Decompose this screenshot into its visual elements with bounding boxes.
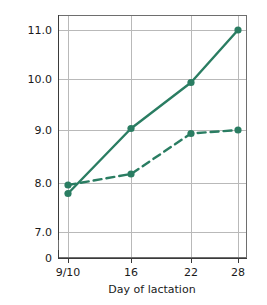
dashed-point-28 xyxy=(234,126,241,133)
line-chart-figure: 11.0 10.0 9.0 8.0 7.0 0 9/10 16 22 28 Da… xyxy=(0,0,267,305)
xtick-label-16: 16 xyxy=(124,266,138,279)
xtick-label-9-10: 9/10 xyxy=(56,266,81,279)
dashed-point-22 xyxy=(187,130,194,137)
ytick-label-9: 9.0 xyxy=(35,124,53,137)
ytick-label-11: 11.0 xyxy=(28,24,53,37)
dashed-point-16 xyxy=(127,170,134,177)
ytick-label-10: 10.0 xyxy=(28,73,53,86)
ytick-label-7: 7.0 xyxy=(35,226,53,239)
x-axis-title: Day of lactation xyxy=(108,283,195,296)
solid-point-9-10 xyxy=(64,190,71,197)
chart-canvas: 11.0 10.0 9.0 8.0 7.0 0 9/10 16 22 28 Da… xyxy=(0,0,267,305)
dashed-point-9-10 xyxy=(64,181,71,188)
ytick-label-0: 0 xyxy=(45,252,52,265)
solid-point-16 xyxy=(127,125,134,132)
xtick-label-22: 22 xyxy=(184,266,198,279)
solid-point-22 xyxy=(187,79,194,86)
xtick-label-28: 28 xyxy=(231,266,245,279)
solid-point-28 xyxy=(234,26,241,33)
ytick-label-8: 8.0 xyxy=(35,177,53,190)
